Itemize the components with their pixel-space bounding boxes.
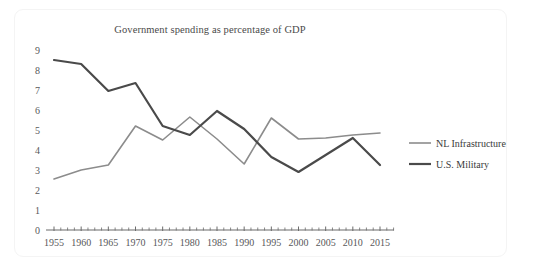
y-tick-label: 6 <box>35 105 40 116</box>
y-tick-label: 9 <box>35 45 40 56</box>
chart-figure: Government spending as percentage of GDP… <box>0 0 547 270</box>
x-tick-label: 1955 <box>44 237 64 248</box>
x-tick-label: 2000 <box>289 237 309 248</box>
x-tick-label: 1960 <box>71 237 91 248</box>
line-chart-plot: 0123456789 19551960196519701975198019851… <box>0 0 547 270</box>
chart-legend: NL InfrastructureU.S. Military <box>409 138 506 170</box>
series-lines <box>54 60 380 179</box>
y-tick-label: 3 <box>35 165 40 176</box>
y-tick-label: 4 <box>35 145 40 156</box>
x-tick-label: 2010 <box>343 237 363 248</box>
x-tick-label: 2005 <box>316 237 336 248</box>
y-tick-label: 0 <box>35 225 40 236</box>
y-tick-label: 1 <box>35 205 40 216</box>
series-line <box>54 60 380 172</box>
x-tick-label: 1975 <box>153 237 173 248</box>
y-axis-tick-labels: 0123456789 <box>35 45 40 236</box>
y-tick-label: 7 <box>35 85 40 96</box>
y-tick-label: 8 <box>35 65 40 76</box>
x-tick-label: 1990 <box>234 237 254 248</box>
x-tick-label: 1985 <box>207 237 227 248</box>
x-tick-label: 1970 <box>126 237 146 248</box>
series-line <box>54 117 380 179</box>
y-tick-label: 5 <box>35 125 40 136</box>
x-tick-label: 1965 <box>98 237 118 248</box>
x-axis-tick-labels: 1955196019651970197519801985199019952000… <box>44 237 390 248</box>
x-tick-label: 2015 <box>370 237 390 248</box>
x-tick-label: 1980 <box>180 237 200 248</box>
y-tick-label: 2 <box>35 185 40 196</box>
x-tick-label: 1995 <box>261 237 281 248</box>
legend-label: NL Infrastructure <box>436 138 506 149</box>
legend-label: U.S. Military <box>436 159 489 170</box>
